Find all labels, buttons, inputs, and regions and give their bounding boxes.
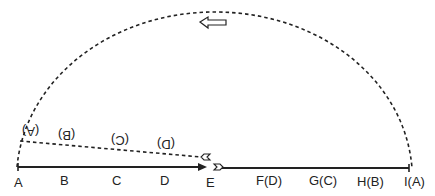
- baseline-label: G(C): [309, 174, 337, 187]
- dashed-arc: [17, 12, 412, 168]
- claw-symbol-left-icon: [201, 154, 210, 160]
- baseline-label: E: [206, 176, 215, 189]
- baseline-label: B: [60, 174, 69, 187]
- left-arrow-icon: [200, 17, 226, 28]
- baseline-label: D: [160, 174, 169, 187]
- baseline-label: A: [14, 176, 23, 189]
- inverted-label: (A): [22, 125, 39, 138]
- claw-symbol-right-icon: [214, 164, 223, 170]
- diagram-canvas: [0, 0, 435, 196]
- baseline-label: F(D): [256, 174, 282, 187]
- inverted-label: (D): [157, 138, 175, 151]
- baseline-label: C: [112, 174, 121, 187]
- arrowhead-icon: [198, 163, 207, 171]
- baseline-label: I(A): [404, 175, 425, 188]
- baseline-label: H(B): [357, 175, 384, 188]
- inverted-label: (C): [111, 134, 129, 147]
- inverted-label: (B): [58, 129, 75, 142]
